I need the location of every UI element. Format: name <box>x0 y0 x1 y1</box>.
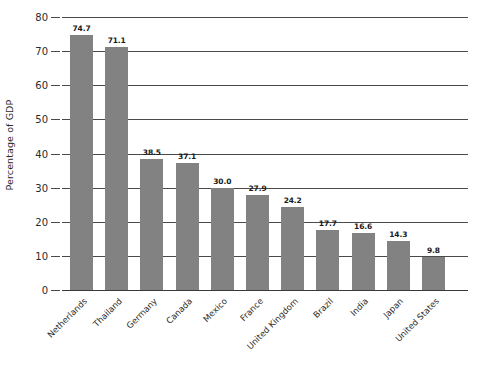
bar: 16.6 <box>352 233 375 290</box>
y-axis-tick-label: 70 <box>35 46 48 57</box>
bar-value-label: 38.5 <box>143 148 161 157</box>
y-axis-tick-label: 30 <box>35 182 48 193</box>
y-axis-tick-mark <box>51 154 60 155</box>
bar: 24.2 <box>281 207 304 290</box>
bar: 74.7 <box>70 35 93 290</box>
y-axis-tick-mark <box>51 188 60 189</box>
bar-value-label: 17.7 <box>319 219 337 228</box>
y-axis-tick-label: 50 <box>35 114 48 125</box>
y-axis-tick-mark <box>51 290 60 291</box>
x-axis-label-text: France <box>238 296 265 323</box>
bar-value-label: 37.1 <box>178 152 196 161</box>
y-axis-tick-label: 0 <box>42 285 48 296</box>
bar: 30.0 <box>211 188 234 290</box>
bar-value-label: 71.1 <box>108 36 126 45</box>
y-axis-tick-label: 80 <box>35 12 48 23</box>
bar-value-label: 74.7 <box>72 24 90 33</box>
y-axis-tick-label: 10 <box>35 250 48 261</box>
x-axis-label-text: Germany <box>124 296 159 331</box>
x-axis-label-text: Japan <box>382 296 406 320</box>
bar: 14.3 <box>387 241 410 290</box>
y-axis-tick-mark <box>51 17 60 18</box>
y-axis-tick-mark <box>51 51 60 52</box>
bar-value-label: 24.2 <box>284 196 302 205</box>
x-axis-label-text: India <box>348 296 370 318</box>
bar-value-label: 16.6 <box>354 222 372 231</box>
x-axis-label-text: Brazil <box>311 296 335 320</box>
x-axis-labels: NetherlandsThailandGermanyCanadaMexicoFr… <box>62 290 468 378</box>
bar: 27.9 <box>246 195 269 290</box>
bar: 71.1 <box>105 47 128 290</box>
x-axis-label-text: Canada <box>164 296 194 326</box>
x-axis-label-text: Thailand <box>91 296 124 329</box>
y-axis-title: Percentage of GDP <box>0 0 18 290</box>
y-axis-tick-label: 60 <box>35 80 48 91</box>
y-axis-tick-mark <box>51 256 60 257</box>
y-axis-tick-mark <box>51 222 60 223</box>
bar-value-label: 30.0 <box>213 177 231 186</box>
bar-chart: Percentage of GDP 01020304050607080 74.7… <box>0 0 478 378</box>
y-axis-tick-mark <box>51 85 60 86</box>
y-axis-tick-label: 40 <box>35 148 48 159</box>
y-axis-tick-mark <box>51 119 60 120</box>
x-axis-label-text: Netherlands <box>45 296 89 340</box>
bar-value-label: 9.8 <box>427 246 440 255</box>
bar-value-label: 27.9 <box>248 184 266 193</box>
x-axis-label-text: Mexico <box>201 296 229 324</box>
bar: 9.8 <box>422 257 445 290</box>
bar-value-label: 14.3 <box>389 230 407 239</box>
y-axis-tick-label: 20 <box>35 216 48 227</box>
bars-layer: 74.771.138.537.130.027.924.217.716.614.3… <box>62 17 468 290</box>
